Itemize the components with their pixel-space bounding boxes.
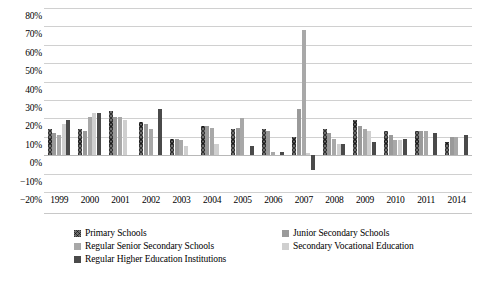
bar [250, 146, 254, 155]
bar-group [350, 8, 381, 192]
bar [302, 30, 306, 155]
bar [158, 109, 162, 155]
x-axis-tick-label: 2008 [319, 194, 350, 206]
legend-item-label: Secondary Vocational Education [293, 241, 414, 252]
bar [292, 137, 296, 155]
legend-swatch-icon [74, 230, 81, 237]
bar [113, 117, 117, 156]
bar [372, 142, 376, 155]
bar [184, 146, 188, 155]
y-axis-tick-label: 40% [2, 85, 42, 95]
bar [327, 133, 331, 155]
bar [454, 137, 458, 155]
chart-legend: Primary SchoolsJunior Secondary SchoolsR… [44, 226, 464, 284]
legend-item-label: Regular Senior Secondary Schools [85, 241, 214, 252]
bar [205, 126, 209, 155]
bar [424, 131, 428, 155]
x-axis-tick-label: 2004 [197, 194, 228, 206]
bar [358, 126, 362, 155]
legend-item[interactable]: Junior Secondary Schools [282, 228, 389, 239]
x-axis-tick-label: 1999 [44, 194, 75, 206]
bar-group [197, 8, 228, 192]
bar [311, 155, 315, 170]
bar [450, 137, 454, 155]
bar [297, 109, 301, 155]
bar-group [75, 8, 106, 192]
bar [415, 131, 419, 155]
bar [337, 144, 341, 155]
x-axis-tick-label: 2003 [166, 194, 197, 206]
bar [464, 135, 468, 155]
bar-group [136, 8, 167, 192]
bar [306, 153, 310, 155]
y-axis-tick-label: 70% [2, 29, 42, 39]
y-axis-tick-label: 60% [2, 48, 42, 58]
x-axis-tick-label: 2009 [350, 194, 381, 206]
y-axis-tick-label: 50% [2, 66, 42, 76]
bar [66, 120, 70, 155]
bar [353, 120, 357, 155]
bar [266, 131, 270, 155]
bar-chart: 80%70%60%50%40%30%20%10%0%−10%−20% 19992… [0, 0, 479, 288]
bar [149, 129, 153, 155]
bar [332, 139, 336, 156]
bar [123, 120, 127, 155]
bar-group [411, 8, 442, 192]
bar [240, 118, 244, 155]
bar-group [105, 8, 136, 192]
y-axis-tick-label: −20% [2, 195, 42, 205]
legend-swatch-icon [74, 243, 81, 250]
bar [109, 111, 113, 155]
bar [210, 128, 214, 156]
bar-group [44, 8, 75, 192]
x-axis-tick-label: 2010 [380, 194, 411, 206]
legend-item[interactable]: Regular Higher Education Institutions [74, 254, 226, 265]
bar [175, 139, 179, 156]
bar [445, 142, 449, 155]
y-axis-tick-label: 10% [2, 140, 42, 150]
x-axis: 1999200020012002200320042005200620072008… [44, 192, 472, 212]
bar [201, 126, 205, 155]
legend-swatch-icon [282, 243, 289, 250]
bar [271, 152, 275, 156]
bar-group [319, 8, 350, 192]
bar [48, 129, 52, 155]
bar [92, 113, 96, 155]
y-axis-tick-label: 30% [2, 103, 42, 113]
bar-group [227, 8, 258, 192]
legend-item[interactable]: Regular Senior Secondary Schools [74, 241, 214, 252]
x-axis-tick-label: 2001 [105, 194, 136, 206]
x-axis-tick-label: 2000 [75, 194, 106, 206]
bar-group [441, 8, 472, 192]
bar-group [258, 8, 289, 192]
bar [97, 113, 101, 155]
legend-item[interactable]: Secondary Vocational Education [282, 241, 414, 252]
bar [83, 131, 87, 155]
bars-layer [44, 8, 472, 192]
bar-group [166, 8, 197, 192]
legend-swatch-icon [74, 256, 81, 263]
y-axis-tick-label: 80% [2, 11, 42, 21]
bar [433, 133, 437, 155]
bar-group [380, 8, 411, 192]
y-axis-tick-label: −10% [2, 177, 42, 187]
y-axis-tick-label: 0% [2, 158, 42, 168]
bar [341, 144, 345, 155]
bar-group [289, 8, 320, 192]
bar [398, 140, 402, 155]
x-axis-tick-label: 2011 [411, 194, 442, 206]
legend-item-label: Primary Schools [85, 228, 147, 239]
bar [280, 152, 284, 156]
legend-item[interactable]: Primary Schools [74, 228, 147, 239]
bar [389, 135, 393, 155]
bar [144, 124, 148, 155]
bar [57, 135, 61, 155]
bar [403, 139, 407, 156]
legend-item-label: Regular Higher Education Institutions [85, 254, 226, 265]
bar [62, 124, 66, 155]
bar [323, 129, 327, 155]
x-axis-tick-label: 2014 [441, 194, 472, 206]
bar [214, 144, 218, 155]
x-axis-tick-label: 2005 [227, 194, 258, 206]
bar [78, 129, 82, 155]
